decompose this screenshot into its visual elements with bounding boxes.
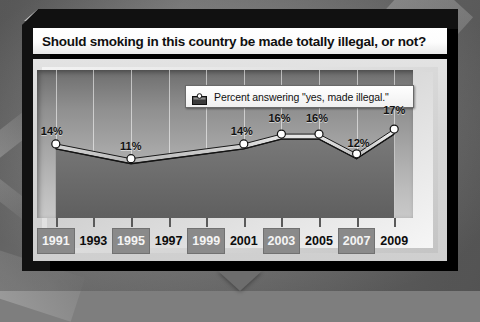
data-point-2005 (315, 130, 323, 138)
x-axis-labels: 1991199319951997199920012003200520072009 (33, 228, 447, 254)
value-label-2005: 16% (306, 112, 328, 124)
plot-area: Percent answering "yes, made illegal." 1… (37, 70, 413, 218)
tick-1993 (93, 218, 95, 227)
x-axis-label-1993: 1993 (75, 228, 113, 254)
x-axis-label-2003: 2003 (263, 228, 301, 254)
x-axis-label-1999: 1999 (187, 228, 225, 254)
value-label-2009: 17% (383, 104, 405, 116)
x-axis-label-2001: 2001 (225, 228, 263, 254)
data-point-1991 (52, 140, 60, 148)
tick-1995 (131, 218, 133, 227)
data-point-2009 (390, 125, 398, 133)
value-label-2001: 14% (231, 125, 253, 137)
data-point-2003 (277, 130, 285, 138)
tick-2001 (244, 218, 246, 227)
data-point-2001 (240, 140, 248, 148)
value-label-2003: 16% (268, 112, 290, 124)
x-axis-label-2007: 2007 (338, 228, 376, 254)
x-axis-label-2009: 2009 (375, 228, 413, 254)
tick-2005 (319, 218, 321, 227)
tick-1999 (206, 218, 208, 227)
x-axis-label-1997: 1997 (150, 228, 188, 254)
value-label-1995: 11% (120, 140, 141, 152)
legend: Percent answering "yes, made illegal." (185, 85, 414, 108)
bottom-pointer-arrow (218, 271, 262, 291)
x-axis-label-1995: 1995 (112, 228, 150, 254)
value-label-2007: 12% (348, 137, 370, 149)
value-label-1991: 14% (41, 125, 63, 137)
tick-2003 (281, 218, 283, 227)
x-axis-ticks (37, 218, 413, 228)
tick-2007 (357, 218, 359, 227)
data-point-2007 (353, 150, 361, 158)
legend-label: Percent answering "yes, made illegal." (214, 91, 389, 103)
data-point-1995 (127, 155, 135, 163)
x-axis-label-2005: 2005 (300, 228, 338, 254)
page-title: Should smoking in this country be made t… (33, 34, 426, 49)
tick-1991 (56, 218, 58, 227)
title-bar: Should smoking in this country be made t… (33, 28, 447, 54)
tick-1997 (169, 218, 171, 227)
x-axis-label-1991: 1991 (37, 228, 75, 254)
tick-2009 (394, 218, 396, 227)
area-series-swatch-icon (192, 91, 207, 103)
